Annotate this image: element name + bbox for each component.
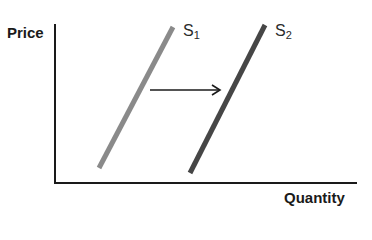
s1-label-main: S <box>183 22 194 39</box>
supply-curve-s2 <box>190 25 265 173</box>
s2-label-sub: 2 <box>286 29 292 41</box>
s1-label: S1 <box>183 22 200 41</box>
x-axis-label: Quantity <box>284 189 345 206</box>
y-axis-label: Price <box>7 24 44 41</box>
s2-label: S2 <box>275 22 292 41</box>
s2-label-main: S <box>275 22 286 39</box>
supply-curve-s1 <box>99 27 173 168</box>
s1-label-sub: 1 <box>194 29 200 41</box>
